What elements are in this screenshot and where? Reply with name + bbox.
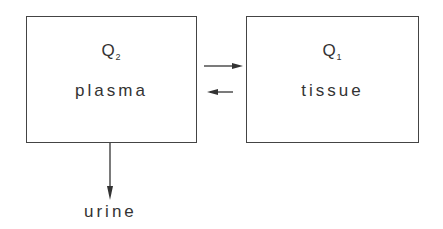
urine-label: urine: [84, 202, 137, 222]
arrows-layer: [0, 0, 443, 229]
arrow-tissue-to-plasma: [207, 89, 233, 95]
arrow-plasma-to-urine: [107, 143, 113, 200]
arrow-plasma-to-tissue: [204, 63, 243, 69]
